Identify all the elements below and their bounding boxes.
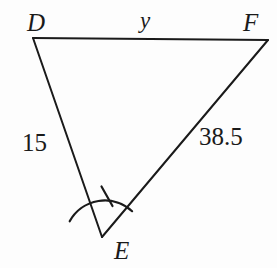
side-df-line (33, 38, 268, 40)
vertex-label-e: E (114, 238, 130, 263)
vertex-label-f: F (243, 10, 259, 35)
side-label-df: y (140, 9, 150, 32)
side-label-ef: 38.5 (199, 124, 243, 149)
geometry-diagram-canvas: D F E y 15 38.5 (0, 0, 277, 268)
side-label-de: 15 (22, 130, 47, 155)
vertex-label-d: D (27, 10, 46, 35)
angle-tick-mark-e (102, 187, 113, 207)
